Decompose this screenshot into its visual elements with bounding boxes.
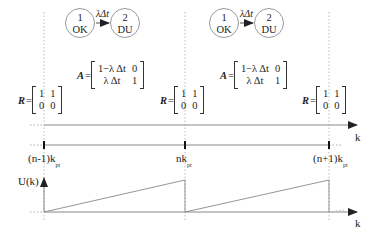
- matrix-name: R: [18, 95, 25, 106]
- state-ok-left: 1 OK: [65, 8, 95, 38]
- vertical-guides: [44, 12, 329, 220]
- state-id: 1: [66, 12, 94, 24]
- unavailability-sawtooth: [44, 180, 329, 212]
- a-matrix-right: A= 1−λ Δt0 λ Δt1: [220, 61, 287, 89]
- tick-label-n: nkpt: [176, 153, 192, 168]
- matrix-name: A: [220, 70, 227, 81]
- state-du-right: 2 DU: [254, 8, 284, 38]
- k-label-bottom: k: [355, 218, 361, 229]
- matrix-name: A: [77, 70, 84, 81]
- tick-label-n-plus-1: (n+1)kpt: [313, 153, 348, 168]
- r-matrix-right: R= 11 00: [302, 86, 346, 114]
- matrix-name: R: [302, 95, 309, 106]
- r-matrix-left: R= 11 00: [18, 86, 62, 114]
- state-label: DU: [255, 24, 283, 36]
- r-matrix-middle: R= 11 00: [160, 86, 204, 114]
- matrix-name: R: [160, 95, 167, 106]
- transition-rate-right: λΔt: [240, 8, 253, 19]
- u-axis-label: U(k): [18, 176, 39, 187]
- state-id: 2: [111, 12, 139, 24]
- state-id: 2: [255, 12, 283, 24]
- state-ok-right: 1 OK: [209, 8, 239, 38]
- state-label: OK: [210, 24, 238, 36]
- tick-label-n-minus-1: (n-1)kpt: [28, 153, 60, 168]
- state-id: 1: [210, 12, 238, 24]
- a-matrix-left: A= 1−λ Δt0 λ Δt1: [77, 61, 144, 89]
- state-label: OK: [66, 24, 94, 36]
- k-label-top: k: [355, 132, 361, 143]
- transition-rate-left: λΔt: [96, 8, 109, 19]
- state-label: DU: [111, 24, 139, 36]
- state-du-left: 2 DU: [110, 8, 140, 38]
- diagram-canvas: [0, 0, 382, 236]
